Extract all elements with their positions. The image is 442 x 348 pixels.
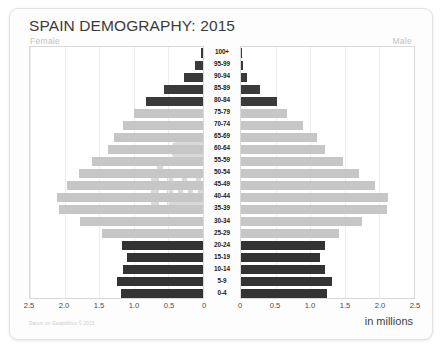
bar-male-80-84 <box>241 97 277 106</box>
age-label-0-4: 0-4 <box>204 288 240 297</box>
age-label-70-74: 70-74 <box>204 119 240 128</box>
bar-male-45-49 <box>241 181 375 190</box>
axis-tick-0.5: 0.5 <box>164 301 175 310</box>
axis-tick-1.0: 1.0 <box>129 301 140 310</box>
age-label-40-44: 40-44 <box>204 191 240 200</box>
credit-text: Datum on Geopolitics © 2015 <box>29 321 94 326</box>
bar-male-65-69 <box>241 133 317 142</box>
bar-female-55-59 <box>92 157 203 166</box>
axis-tick-1.0: 1.0 <box>305 301 316 310</box>
bar-female-65-69 <box>114 133 203 142</box>
bar-male-70-74 <box>241 121 303 130</box>
page-title: SPAIN DEMOGRAPHY: 2015 <box>29 17 235 35</box>
bar-female-10-14 <box>123 265 203 274</box>
bar-female-25-29 <box>102 229 203 238</box>
age-label-35-39: 35-39 <box>204 203 240 212</box>
bar-male-90-94 <box>241 73 247 82</box>
female-panel <box>29 46 204 299</box>
chart-card: SPAIN DEMOGRAPHY: 2015 Female Male <box>9 8 433 340</box>
bar-female-20-24 <box>122 241 203 250</box>
bar-female-0-4 <box>121 289 203 298</box>
male-value-axis: 00.51.01.52.02.5 <box>240 301 415 313</box>
bar-female-100+ <box>201 48 203 57</box>
bar-female-95-99 <box>195 61 203 70</box>
population-pyramid-plot: 100+95-9990-9485-8980-8475-7970-7465-696… <box>29 46 415 299</box>
bar-male-0-4 <box>241 289 327 298</box>
age-label-80-84: 80-84 <box>204 95 240 104</box>
bar-male-35-39 <box>241 205 387 214</box>
bar-female-85-89 <box>164 85 203 94</box>
age-label-100+: 100+ <box>204 47 240 56</box>
bar-male-100+ <box>241 48 242 57</box>
axis-tick-0.5: 0.5 <box>270 301 281 310</box>
age-label-75-79: 75-79 <box>204 107 240 116</box>
bar-female-70-74 <box>123 121 203 130</box>
age-label-45-49: 45-49 <box>204 179 240 188</box>
age-group-axis: 100+95-9990-9485-8980-8475-7970-7465-696… <box>204 46 240 299</box>
male-bars <box>241 47 414 298</box>
bar-female-50-54 <box>79 169 203 178</box>
units-label: in millions <box>365 315 413 327</box>
bar-female-90-94 <box>184 73 203 82</box>
bar-male-20-24 <box>241 241 325 250</box>
female-axis-label: Female <box>30 36 60 46</box>
bar-female-40-44 <box>57 193 203 202</box>
age-label-5-9: 5-9 <box>204 276 240 285</box>
male-panel <box>240 46 415 299</box>
age-label-60-64: 60-64 <box>204 143 240 152</box>
age-label-95-99: 95-99 <box>204 59 240 68</box>
bar-male-75-79 <box>241 109 287 118</box>
age-label-10-14: 10-14 <box>204 264 240 273</box>
bar-male-15-19 <box>241 253 320 262</box>
bar-male-95-99 <box>241 61 243 70</box>
axis-tick-2.0: 2.0 <box>59 301 70 310</box>
bar-female-75-79 <box>134 109 203 118</box>
axis-tick-2.0: 2.0 <box>375 301 386 310</box>
axis-tick-0: 0 <box>238 301 242 310</box>
female-bars <box>30 47 203 298</box>
male-axis-label: Male <box>392 36 412 46</box>
age-label-90-94: 90-94 <box>204 71 240 80</box>
bar-male-30-34 <box>241 217 362 226</box>
bar-male-5-9 <box>241 277 332 286</box>
axis-tick-1.5: 1.5 <box>340 301 351 310</box>
bar-male-60-64 <box>241 145 325 154</box>
axis-tick-2.5: 2.5 <box>24 301 35 310</box>
bar-male-85-89 <box>241 85 260 94</box>
age-label-55-59: 55-59 <box>204 155 240 164</box>
age-label-25-29: 25-29 <box>204 228 240 237</box>
bar-male-55-59 <box>241 157 343 166</box>
bar-female-15-19 <box>127 253 203 262</box>
bar-female-60-64 <box>108 145 203 154</box>
bar-male-50-54 <box>241 169 359 178</box>
bar-male-40-44 <box>241 193 388 202</box>
age-label-65-69: 65-69 <box>204 131 240 140</box>
age-label-50-54: 50-54 <box>204 167 240 176</box>
female-value-axis: 2.52.01.51.00.50 <box>29 301 204 313</box>
axis-tick-0: 0 <box>202 301 206 310</box>
bar-female-80-84 <box>146 97 203 106</box>
axis-tick-2.5: 2.5 <box>410 301 421 310</box>
age-label-20-24: 20-24 <box>204 240 240 249</box>
bar-female-35-39 <box>59 205 203 214</box>
axis-tick-1.5: 1.5 <box>94 301 105 310</box>
age-label-30-34: 30-34 <box>204 216 240 225</box>
bar-male-10-14 <box>241 265 325 274</box>
bar-female-30-34 <box>80 217 203 226</box>
bar-female-5-9 <box>117 277 204 286</box>
age-label-85-89: 85-89 <box>204 83 240 92</box>
bar-male-25-29 <box>241 229 339 238</box>
bar-female-45-49 <box>67 181 203 190</box>
age-label-15-19: 15-19 <box>204 252 240 261</box>
